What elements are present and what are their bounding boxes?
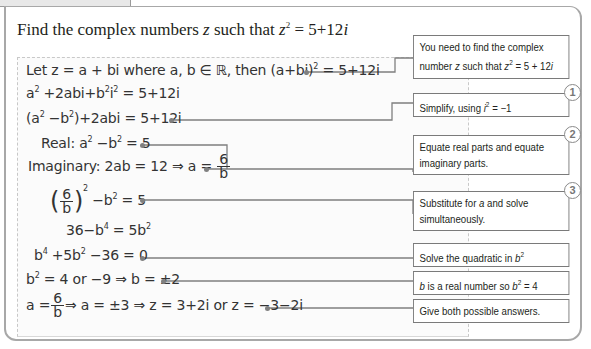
step-text: +2abi+b	[39, 85, 104, 101]
bullet-dot	[140, 198, 145, 203]
note-equate: Equate real parts and equate imaginary p…	[413, 135, 569, 175]
paren-open: (	[50, 187, 59, 215]
step-text: = 5+12i	[118, 85, 179, 101]
note-line: simultaneously.	[419, 211, 563, 227]
step-text: )+2abi = 5+12i	[74, 110, 182, 126]
note-sup: 2	[520, 251, 524, 258]
step-group: (a2 −b2)+2abi = 5+12i	[26, 110, 182, 126]
step-text: −b	[45, 110, 69, 126]
step-text: b	[26, 271, 35, 287]
step-sup: 2	[146, 222, 151, 231]
bullet-dot	[161, 279, 166, 284]
step-let: Let z = a + bi where a, b ∈ ℝ, then (a+b…	[26, 62, 380, 78]
step-badge-3: 3	[564, 182, 581, 199]
note-line: Equate real parts and equate	[419, 139, 563, 155]
step-expand: a2 +2abi+b2i2 = 5+12i	[26, 85, 180, 101]
bullet-dot	[265, 306, 270, 311]
bullet-dot	[169, 118, 174, 123]
step-badge-2: 2	[564, 126, 581, 143]
step-text: = 5+12i	[318, 62, 379, 78]
step-text: = 4 or −9 ⇒ b = ±2	[40, 271, 180, 287]
note-text: Simplify, using	[419, 102, 483, 114]
step-text: = 5	[122, 135, 151, 151]
note-find: You need to find the complex number z su…	[413, 35, 569, 79]
bullet-dot	[140, 143, 145, 148]
paren-close: )	[74, 187, 83, 215]
note-text: number	[419, 60, 454, 72]
step-text: a =	[26, 297, 50, 313]
note-line: number z such that z2 = 5 + 12i	[419, 55, 563, 74]
step-text: +5b	[48, 247, 81, 263]
note-text: = 5 + 12	[513, 60, 551, 72]
connector-imaginary	[207, 169, 413, 172]
fraction: 6b	[51, 292, 64, 319]
note-text: such that	[460, 60, 505, 72]
note-text: Give both possible answers.	[419, 305, 540, 317]
note-simplify: Simplify, using i2 = −1	[413, 93, 569, 117]
step-text: Let z = a + bi where a, b ∈ ℝ, then (a+b…	[26, 62, 313, 78]
step-imaginary: Imaginary: 2ab = 12 ⇒ a = 6b	[28, 153, 231, 180]
step-text: (a	[26, 110, 40, 126]
note-text: is a real number so	[425, 280, 513, 292]
note-answers: Give both possible answers.	[413, 299, 569, 323]
note-line: Substitute for a and solve	[419, 195, 563, 211]
denominator: b	[219, 167, 228, 180]
note-line: You need to find the complex	[419, 39, 563, 55]
step-real: Real: a2 −b2 = 5	[41, 135, 151, 151]
denominator: b	[53, 306, 62, 319]
note-real: b is a real number so b2 = 4	[413, 271, 569, 295]
note-substitute: Substitute for a and solve simultaneousl…	[413, 191, 569, 231]
note-text: Solve the quadratic in	[419, 252, 515, 264]
step-roots: b2 = 4 or −9 ⇒ b = ±2	[26, 271, 180, 287]
fraction: 6b	[217, 153, 230, 180]
step-substitute: (6b)2 −b2 = 5	[50, 184, 146, 215]
fraction: 6b	[60, 188, 73, 215]
note-text: = 4	[521, 280, 537, 292]
note-line: imaginary parts.	[419, 155, 563, 171]
step-text: Imaginary: 2ab = 12 ⇒ a =	[28, 158, 212, 174]
step-badge-1: 1	[564, 84, 581, 101]
step-text: b	[34, 247, 43, 263]
note-var: i	[551, 60, 553, 72]
step-text: −b	[92, 135, 116, 151]
connector-substitute	[143, 200, 413, 214]
step-text: = 5b	[109, 222, 146, 238]
note-quadratic: Solve the quadratic in b2	[413, 243, 569, 267]
note-text: and solve	[484, 197, 528, 209]
step-rearrange: 36−b4 = 5b2	[66, 222, 151, 238]
step-text: Real: a	[41, 135, 88, 151]
connector-group	[172, 103, 413, 120]
step-quadratic: b4 +5b2 −36 = 0	[34, 247, 148, 263]
step-text: 36−b	[66, 222, 104, 238]
note-text: Substitute for	[419, 197, 479, 209]
step-answer: a =6b⇒ a = ±3 ⇒ z = 3+2i or z = −3−2i	[26, 292, 303, 319]
bullet-dot	[204, 167, 209, 172]
step-text: −b	[88, 192, 112, 208]
bullet-dot	[140, 256, 145, 261]
bullet-dot	[304, 70, 309, 75]
step-text: −36 = 0	[86, 247, 148, 263]
denominator: b	[62, 202, 71, 215]
note-text: = −1	[489, 102, 511, 114]
